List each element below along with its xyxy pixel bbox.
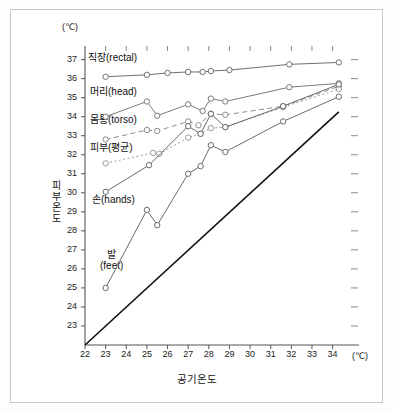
series-marker-1 <box>103 114 108 119</box>
series-marker-5 <box>198 163 203 168</box>
series-marker-0 <box>165 70 170 75</box>
series-marker-1 <box>200 108 205 113</box>
series-marker-1 <box>223 99 228 104</box>
series-marker-2 <box>144 127 149 132</box>
series-marker-0 <box>200 69 205 74</box>
series-marker-3 <box>208 125 213 130</box>
series-marker-5 <box>185 171 190 176</box>
series-marker-5 <box>155 222 160 227</box>
series-marker-5 <box>208 143 213 148</box>
series-marker-5 <box>223 149 228 154</box>
series-marker-0 <box>185 69 190 74</box>
series-marker-0 <box>103 74 108 79</box>
series-marker-4 <box>280 104 285 109</box>
series-marker-2 <box>223 112 228 117</box>
series-marker-4 <box>146 163 151 168</box>
figure-container: (℃) (℃) 피부온도 공기온도 2324252627282930313233… <box>0 0 393 412</box>
series-marker-4 <box>185 124 190 129</box>
series-marker-3 <box>157 151 162 156</box>
series-marker-5 <box>280 119 285 124</box>
series-marker-4 <box>336 82 341 87</box>
series-marker-2 <box>196 123 201 128</box>
series-marker-0 <box>287 62 292 67</box>
series-marker-3 <box>150 150 155 155</box>
series-marker-4 <box>198 131 203 136</box>
series-marker-1 <box>185 102 190 107</box>
series-marker-5 <box>103 285 108 290</box>
series-marker-4 <box>208 111 213 116</box>
series-marker-3 <box>103 161 108 166</box>
chart-plot-area <box>0 0 393 412</box>
series-marker-5 <box>336 94 341 99</box>
series-marker-4 <box>103 189 108 194</box>
series-marker-2 <box>155 128 160 133</box>
series-marker-2 <box>103 137 108 142</box>
series-marker-5 <box>144 207 149 212</box>
series-marker-4 <box>223 124 228 129</box>
series-marker-1 <box>287 85 292 90</box>
series-marker-1 <box>208 96 213 101</box>
series-marker-0 <box>227 67 232 72</box>
series-marker-1 <box>155 113 160 118</box>
series-marker-0 <box>208 68 213 73</box>
series-line-2 <box>106 86 339 139</box>
series-line-5 <box>106 97 339 288</box>
series-marker-0 <box>336 60 341 65</box>
series-marker-1 <box>144 99 149 104</box>
series-line-0 <box>106 62 339 76</box>
series-marker-0 <box>144 72 149 77</box>
series-marker-3 <box>185 135 190 140</box>
